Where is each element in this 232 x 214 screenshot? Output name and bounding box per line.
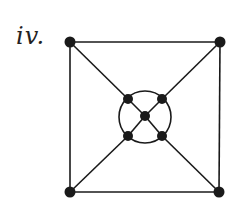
node-outer-top-right: [215, 37, 226, 48]
node-inner-bottom-left: [123, 131, 133, 141]
edge-outer-top-left-to-inner-top-left: [70, 42, 128, 99]
node-inner-top-left: [123, 94, 133, 104]
node-outer-bottom-left: [65, 187, 76, 198]
node-inner-top-right: [157, 94, 167, 104]
edge-outer-top-right-to-inner-top-right: [162, 42, 220, 99]
node-inner-center: [140, 111, 150, 121]
edge-outer-bottom-right-to-inner-bottom-right: [162, 136, 219, 192]
edge-outer-bottom-left-to-inner-bottom-left: [70, 136, 128, 192]
graph-diagram: [0, 0, 232, 214]
node-outer-bottom-right: [214, 187, 225, 198]
node-inner-bottom-right: [157, 131, 167, 141]
node-outer-top-left: [65, 37, 76, 48]
edge-outer-top-right-to-outer-bottom-right: [219, 42, 220, 192]
